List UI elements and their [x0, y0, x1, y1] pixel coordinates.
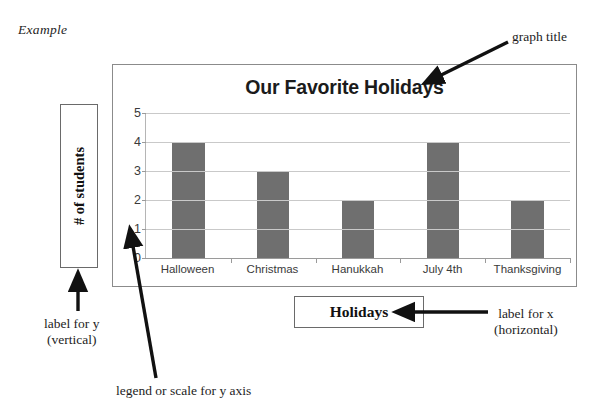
- gridline: [146, 113, 570, 114]
- callout-graph-title: graph title: [512, 29, 567, 45]
- gridline: [146, 142, 570, 143]
- x-axis-label-text: Holidays: [295, 303, 423, 321]
- bar: [257, 171, 289, 258]
- gridline: [146, 229, 570, 230]
- x-axis-category-labels: HalloweenChristmasHanukkahJuly 4thThanks…: [145, 263, 570, 281]
- callout-label-for-x-line2: (horizontal): [494, 322, 558, 338]
- gridline: [146, 171, 570, 172]
- y-axis-tick: [142, 113, 146, 114]
- x-axis-category-label: Hanukkah: [332, 263, 384, 275]
- y-axis-label-box: # of students: [60, 104, 98, 268]
- callout-label-for-x: label for x (horizontal): [494, 306, 558, 337]
- chart-title: Our Favorite Holidays: [113, 76, 576, 99]
- x-axis-category-label: Halloween: [161, 263, 215, 275]
- gridline: [146, 258, 570, 259]
- x-axis-category-label: July 4th: [423, 263, 463, 275]
- x-axis-category-label: Thanksgiving: [494, 263, 562, 275]
- gridline: [146, 200, 570, 201]
- callout-label-for-y-line2: (vertical): [44, 332, 99, 348]
- plot-area: [145, 113, 570, 258]
- y-axis-tick: [142, 229, 146, 230]
- callout-label-for-y: label for y (vertical): [44, 316, 99, 347]
- y-axis-tick-label: 0: [121, 251, 141, 265]
- y-axis-tick: [142, 142, 146, 143]
- callout-label-for-x-line1: label for x: [494, 306, 558, 322]
- y-axis-label-text: # of students: [71, 147, 88, 225]
- y-axis-tick-label: 5: [121, 106, 141, 120]
- y-axis-tick: [142, 200, 146, 201]
- worksheet-page: Example Our Favorite Holidays 012345 Hal…: [0, 0, 606, 414]
- x-axis-tick: [570, 258, 571, 263]
- y-axis-tick: [142, 171, 146, 172]
- y-axis-tick-label: 3: [121, 164, 141, 178]
- y-axis-tick: [142, 258, 146, 259]
- example-caption: Example: [18, 22, 67, 38]
- y-axis-tick-label: 2: [121, 193, 141, 207]
- y-axis-tick-labels: 012345: [121, 113, 141, 258]
- y-axis-tick-label: 4: [121, 135, 141, 149]
- chart-container: Our Favorite Holidays 012345 HalloweenCh…: [112, 64, 577, 287]
- x-axis-category-label: Christmas: [247, 263, 299, 275]
- y-axis-tick-label: 1: [121, 222, 141, 236]
- bars-layer: [146, 113, 570, 258]
- callout-legend-scale-y: legend or scale for y axis: [116, 383, 251, 399]
- callout-label-for-y-line1: label for y: [44, 316, 99, 332]
- plot-wrapper: 012345 HalloweenChristmasHanukkahJuly 4t…: [121, 113, 570, 281]
- x-axis-label-box: Holidays: [294, 296, 424, 328]
